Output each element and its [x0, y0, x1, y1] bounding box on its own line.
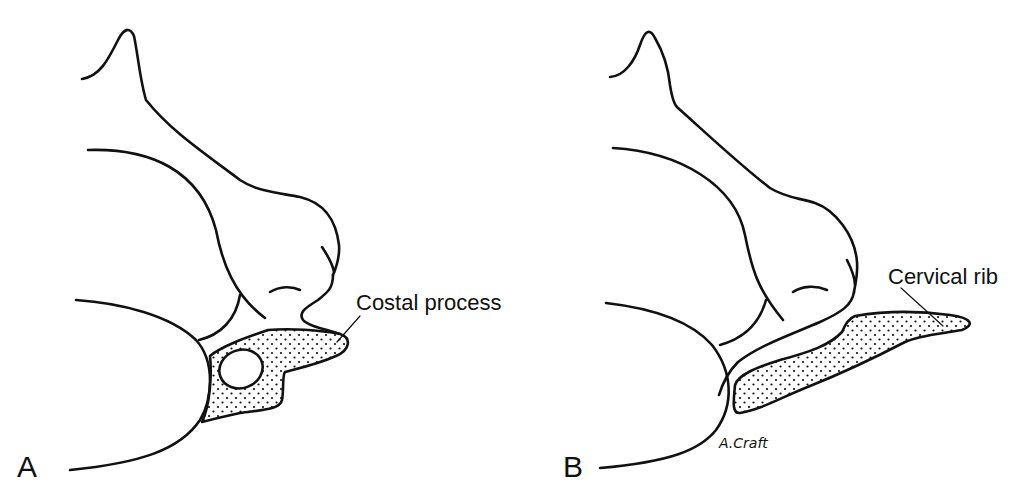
panel-a-notch — [301, 275, 340, 334]
panel-b-small-arc — [793, 287, 827, 292]
panel-b-middle-arc — [613, 148, 783, 320]
panel-b-label: B — [563, 450, 583, 483]
panel-a-leader-line — [337, 316, 360, 342]
panel-a-small-arc — [270, 287, 300, 292]
artist-signature: A.Craft — [718, 435, 768, 451]
panel-b-tick — [847, 260, 855, 285]
panel-b: Cervical rib B A.Craft — [563, 32, 998, 483]
panel-a-middle-arc — [88, 150, 265, 318]
cervical-rib-diagram: Costal process A Cervical rib B A.Craft — [0, 0, 1033, 498]
panel-b-upper-outline — [610, 32, 857, 292]
panel-b-cervical-rib — [734, 312, 970, 413]
panel-a-label: A — [17, 450, 37, 483]
panel-a-body-outline — [70, 300, 210, 470]
panel-a-tick — [322, 247, 334, 272]
panel-a: Costal process A — [17, 30, 502, 483]
costal-process-label: Costal process — [356, 290, 502, 315]
panel-b-connector — [720, 300, 766, 345]
panel-a-connector — [199, 295, 240, 340]
cervical-rib-label: Cervical rib — [888, 264, 998, 289]
panel-b-body-outline — [600, 303, 729, 468]
